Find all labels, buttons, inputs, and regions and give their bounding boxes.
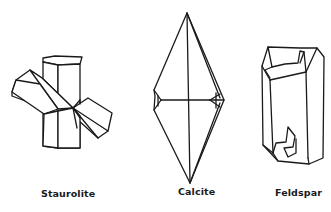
calcite-label: Calcite <box>178 186 215 197</box>
feldspar-drawing <box>262 47 324 164</box>
staurolite-drawing <box>12 56 112 148</box>
feldspar-label: Feldspar <box>275 187 322 198</box>
calcite-drawing <box>154 13 224 183</box>
staurolite-label: Staurolite <box>41 188 95 199</box>
crystal-drawings <box>0 0 331 212</box>
